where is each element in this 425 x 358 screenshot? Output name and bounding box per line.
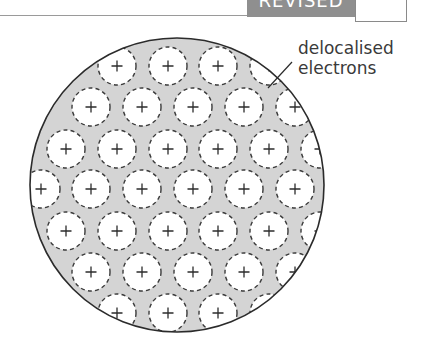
positive-ion — [123, 170, 161, 208]
positive-ion — [149, 47, 187, 85]
positive-ion — [276, 170, 314, 208]
positive-ion — [225, 170, 263, 208]
positive-ion — [250, 130, 288, 168]
positive-ion — [199, 212, 237, 250]
positive-ion — [123, 253, 161, 291]
positive-ion — [149, 212, 187, 250]
positive-ion — [72, 170, 110, 208]
positive-ion — [72, 253, 110, 291]
positive-ion — [174, 88, 212, 126]
positive-ion — [47, 212, 85, 250]
positive-ion — [199, 47, 237, 85]
positive-ion — [22, 170, 60, 208]
positive-ion — [199, 130, 237, 168]
positive-ion — [149, 294, 187, 332]
positive-ion — [225, 253, 263, 291]
positive-ion — [98, 212, 136, 250]
label-delocalised: delocalised — [298, 38, 394, 58]
positive-ion — [225, 88, 263, 126]
positive-ion — [123, 88, 161, 126]
positive-ion — [47, 130, 85, 168]
positive-ion — [250, 47, 288, 85]
positive-ion — [174, 253, 212, 291]
positive-ion — [98, 130, 136, 168]
positive-ion — [149, 130, 187, 168]
positive-ion — [174, 170, 212, 208]
positive-ion — [98, 47, 136, 85]
label-electrons: electrons — [298, 58, 376, 78]
positive-ion — [72, 88, 110, 126]
positive-ion — [250, 212, 288, 250]
